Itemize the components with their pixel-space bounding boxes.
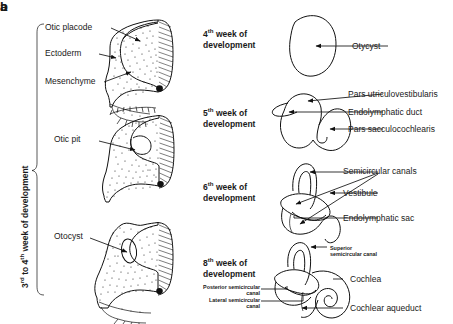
label-cochlea: Cochlea	[350, 274, 381, 285]
label-posterior-semicircular-canal: Posterior semicircular canal	[186, 284, 260, 297]
label-cochlear-aqueduct: Cochlear aqueduct	[350, 303, 421, 314]
label-superior-semicircular-canal: Superior semicircular canal	[330, 245, 396, 258]
diagram-week-8	[0, 0, 453, 324]
label-lateral-semicircular-canal: Lateral semicircular canal	[186, 297, 260, 310]
figure-ear-development: a 3rd to 4th week of development	[0, 0, 453, 324]
